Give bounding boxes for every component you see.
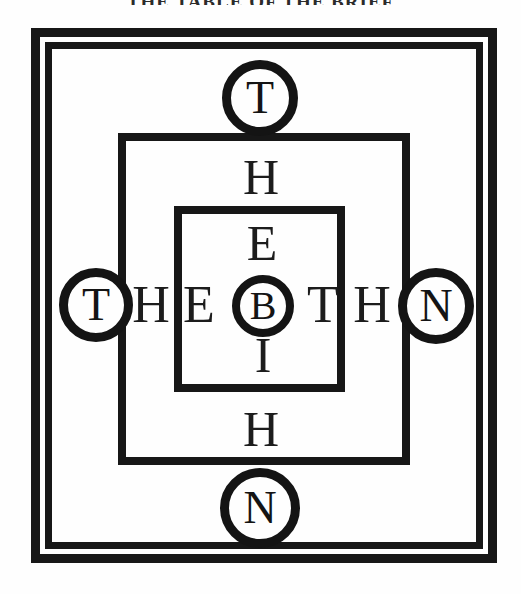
letter-h-top: H (237, 152, 285, 202)
letter-e-left: E (176, 279, 222, 331)
circle-left: T (59, 268, 133, 342)
circle-right: N (398, 268, 474, 344)
circle-top: T (222, 60, 298, 136)
letter-e-top: E (238, 218, 286, 268)
letter-i-bottom: I (239, 330, 287, 380)
circle-center: B (232, 275, 294, 337)
circle-bottom: N (220, 468, 300, 548)
letter-h-left: H (128, 279, 174, 331)
page-title: THE TABLE OF THE BRIEF (0, 0, 521, 5)
letter-h-bottom: H (237, 404, 285, 454)
letter-h-right: H (349, 279, 395, 331)
letter-t-right: T (300, 279, 346, 331)
diagram-canvas: THE TABLE OF THE BRIEF T N T N H E T H H… (0, 0, 521, 594)
